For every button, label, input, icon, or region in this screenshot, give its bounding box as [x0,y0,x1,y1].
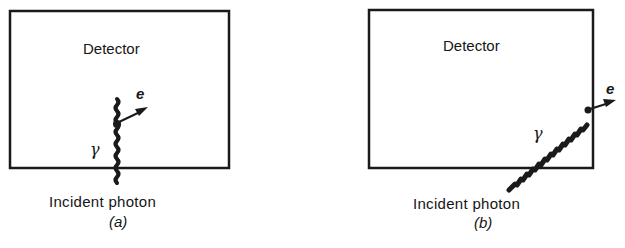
photon-track-b [509,125,587,190]
arrowhead-icon-b [603,99,616,107]
caption-a: Incident photon [49,193,156,210]
diagram-canvas [0,0,625,248]
photon-track-a [116,99,119,183]
caption-b: Incident photon [413,195,520,212]
sublabel-a: (a) [109,213,127,230]
detector-label-a: Detector [83,40,140,57]
detector-box-a [10,11,229,168]
detector-box-b [369,10,593,168]
detector-label-b: Detector [443,37,500,54]
interaction-point-b [585,107,592,114]
photon-label-a: γ [90,140,100,159]
photon-label-b: γ [533,124,543,143]
electron-label-b: e [606,80,614,97]
electron-label-a: e [136,85,144,102]
sublabel-b: (b) [474,214,492,231]
arrowhead-icon-a [135,107,148,116]
